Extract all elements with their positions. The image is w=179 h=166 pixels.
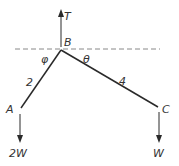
label-weight-W: W <box>153 147 165 160</box>
label-phi: φ <box>41 53 49 66</box>
label-length-2: 2 <box>26 76 33 89</box>
label-C: C <box>162 103 170 116</box>
label-A: A <box>5 103 14 116</box>
weight-arrowhead-A-icon <box>17 135 23 143</box>
label-tension: T <box>64 10 72 23</box>
label-length-4: 4 <box>119 75 126 88</box>
weight-arrowhead-C-icon <box>156 135 162 143</box>
rod-system-diagram: T B φ θ 2 4 A C 2W W <box>0 0 179 166</box>
label-B: B <box>64 36 72 49</box>
label-weight-2W: 2W <box>9 147 28 160</box>
rod-BC <box>61 50 158 107</box>
label-theta: θ <box>83 53 90 66</box>
diagram-svg: T B φ θ 2 4 A C 2W W <box>0 0 179 166</box>
